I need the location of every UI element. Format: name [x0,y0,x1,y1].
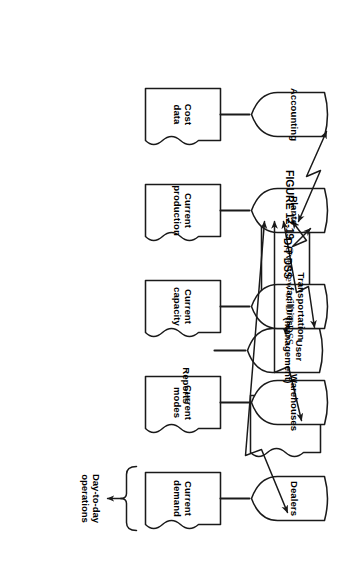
document-current-production[interactable] [145,184,220,240]
figure-caption-text: Overview of D/T DSS. [284,246,296,347]
document-cost-data[interactable] [145,88,220,144]
figure-caption: FIGURE 12-19Overview of D/T DSS. [284,170,296,400]
diagram-svg [0,0,350,567]
document-current-capacity[interactable] [145,280,220,336]
node-dealers[interactable] [251,476,327,520]
figure-number: FIGURE 12-19 [284,170,296,239]
document-current-demand[interactable] [145,472,220,528]
diagram-rotated-group: D/T DSS User (management) Reports Accoun… [0,0,350,567]
document-current-modes[interactable] [145,376,220,432]
node-accounting[interactable] [251,92,327,136]
figure-canvas: D/T DSS User (management) Reports Accoun… [0,0,350,567]
